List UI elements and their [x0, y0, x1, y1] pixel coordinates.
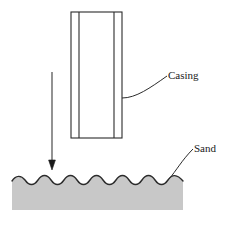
casing-label: Casing: [168, 69, 199, 81]
sand-leader-line: [169, 149, 193, 179]
driving-force-arrow-head: [49, 160, 56, 170]
casing-leader-line: [122, 76, 167, 98]
diagram-canvas: Casing Sand: [0, 0, 234, 225]
diagram-svg: Casing Sand: [0, 0, 234, 225]
sand-label: Sand: [194, 142, 217, 154]
